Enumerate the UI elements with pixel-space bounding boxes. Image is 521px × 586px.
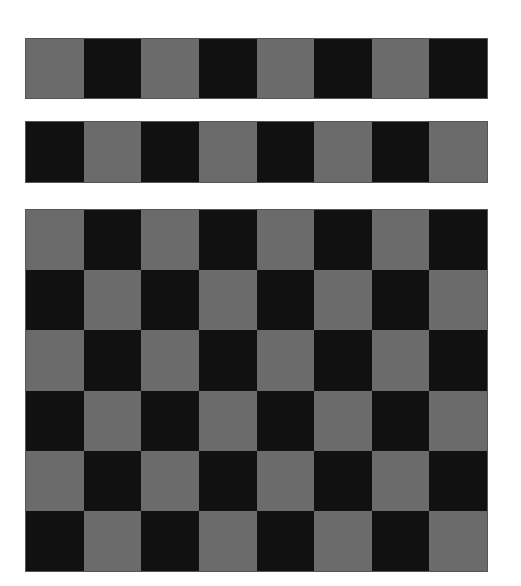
black-square (257, 122, 315, 182)
black-square (429, 210, 487, 270)
grey-square (84, 511, 142, 571)
grey-square (141, 330, 199, 390)
grey-square (257, 210, 315, 270)
black-square (257, 270, 315, 330)
grey-square (314, 391, 372, 451)
black-square (26, 122, 84, 182)
strip-second (25, 121, 488, 183)
black-square (257, 511, 315, 571)
black-square (84, 451, 142, 511)
black-square (429, 330, 487, 390)
black-square (372, 270, 430, 330)
black-square (314, 451, 372, 511)
grey-square (429, 511, 487, 571)
grey-square (257, 451, 315, 511)
strip-top (25, 38, 488, 99)
grey-square (84, 122, 142, 182)
black-square (141, 270, 199, 330)
black-square (141, 511, 199, 571)
black-square (199, 451, 257, 511)
black-square (314, 210, 372, 270)
grey-square (257, 330, 315, 390)
grey-square (314, 122, 372, 182)
black-square (26, 270, 84, 330)
grey-square (257, 39, 315, 98)
black-square (314, 330, 372, 390)
grey-square (429, 391, 487, 451)
grey-square (26, 210, 84, 270)
black-square (26, 391, 84, 451)
black-square (199, 330, 257, 390)
black-square (372, 511, 430, 571)
grey-square (199, 122, 257, 182)
grey-square (84, 270, 142, 330)
grey-square (429, 270, 487, 330)
grey-square (199, 270, 257, 330)
black-square (141, 391, 199, 451)
grey-square (141, 39, 199, 98)
grey-square (26, 451, 84, 511)
grey-square (141, 451, 199, 511)
black-square (372, 391, 430, 451)
black-square (199, 39, 257, 98)
black-square (314, 39, 372, 98)
grey-square (429, 122, 487, 182)
grey-square (199, 511, 257, 571)
grey-square (314, 270, 372, 330)
grey-square (372, 39, 430, 98)
black-square (372, 122, 430, 182)
grey-square (372, 210, 430, 270)
grey-square (26, 39, 84, 98)
grey-square (84, 391, 142, 451)
grey-square (372, 330, 430, 390)
black-square (429, 451, 487, 511)
grey-square (314, 511, 372, 571)
grey-square (26, 330, 84, 390)
black-square (199, 210, 257, 270)
black-square (429, 39, 487, 98)
black-square (84, 330, 142, 390)
grey-square (372, 451, 430, 511)
black-square (257, 391, 315, 451)
black-square (84, 39, 142, 98)
black-square (26, 511, 84, 571)
black-square (141, 122, 199, 182)
grey-square (141, 210, 199, 270)
black-square (84, 210, 142, 270)
checkerboard-grid (25, 209, 488, 572)
grey-square (199, 391, 257, 451)
